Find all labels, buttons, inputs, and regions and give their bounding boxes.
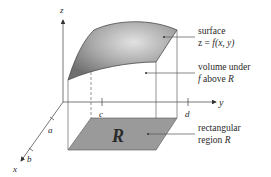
region-label: rectangular [198, 123, 242, 133]
y-axis: y [63, 97, 224, 108]
z-axis-label: z [59, 5, 64, 15]
surface-annotation: surface z = f(x, y) [198, 26, 234, 49]
surface [68, 22, 177, 80]
volume-label: volume under [198, 62, 251, 72]
region-label-2: region R [198, 135, 231, 145]
tick-b-label: b [27, 154, 32, 164]
z-axis: z [59, 5, 64, 102]
x-axis: x [12, 102, 63, 174]
volume-label-2: f above R [198, 74, 234, 84]
tick-a-label: a [48, 125, 53, 135]
tick-c-label: c [99, 109, 103, 119]
surface-label: surface [198, 26, 225, 36]
y-axis-ticks: c d [99, 98, 190, 119]
region-symbol: R [111, 126, 124, 146]
volume-annotation: volume under f above R [198, 62, 251, 84]
y-axis-label: y [218, 97, 224, 108]
tick-d-label: d [185, 109, 190, 119]
x-axis-ticks: a b [27, 117, 54, 164]
volume-under-surface-diagram: z y x a b c d R [0, 0, 271, 177]
x-axis-label: x [12, 164, 17, 174]
region-annotation: rectangular region R [198, 123, 242, 145]
surface-equation: z = f(x, y) [198, 38, 234, 49]
